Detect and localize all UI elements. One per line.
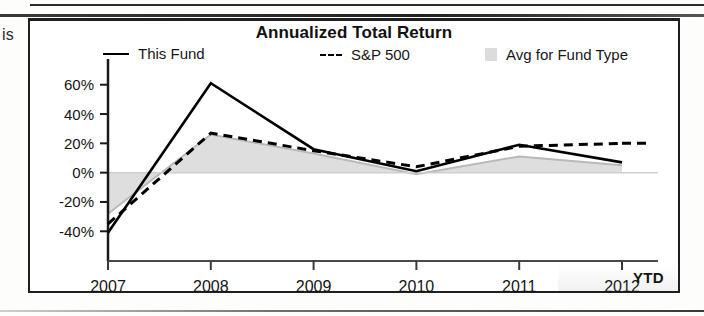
scanned-page: is Annualized Total Return This Fund S&P…	[0, 0, 704, 316]
chart-panel: Annualized Total Return This Fund S&P 50…	[28, 18, 680, 293]
left-text-fragment: is	[2, 26, 14, 44]
page-rule-bottom	[0, 310, 704, 312]
y-axis-labels: 60%40%20%0%-20%-40%	[59, 76, 94, 240]
svg-text:-20%: -20%	[59, 193, 94, 210]
svg-text:2010: 2010	[399, 278, 435, 295]
x-axis-ytd-note: YTD	[633, 269, 664, 286]
series-area-avg-for-fund-type	[108, 135, 658, 214]
x-axis-labels: 200720082009201020112012	[90, 278, 640, 295]
x-axis-ticks	[108, 261, 622, 270]
svg-text:-40%: -40%	[59, 223, 94, 240]
svg-text:2009: 2009	[296, 278, 332, 295]
svg-text:2007: 2007	[90, 278, 126, 295]
svg-text:2008: 2008	[193, 278, 229, 295]
chart-svg: 60%40%20%0%-20%-40% 20072008200920102011…	[30, 21, 682, 296]
svg-text:0%: 0%	[72, 164, 94, 181]
svg-text:20%: 20%	[64, 135, 94, 152]
page-rule-top-inner	[0, 14, 704, 17]
svg-text:60%: 60%	[64, 76, 94, 93]
svg-text:2011: 2011	[502, 278, 537, 295]
svg-text:40%: 40%	[64, 106, 94, 123]
plot-area: 60%40%20%0%-20%-40% 20072008200920102011…	[30, 21, 682, 296]
page-rule-top-outer	[30, 4, 704, 6]
